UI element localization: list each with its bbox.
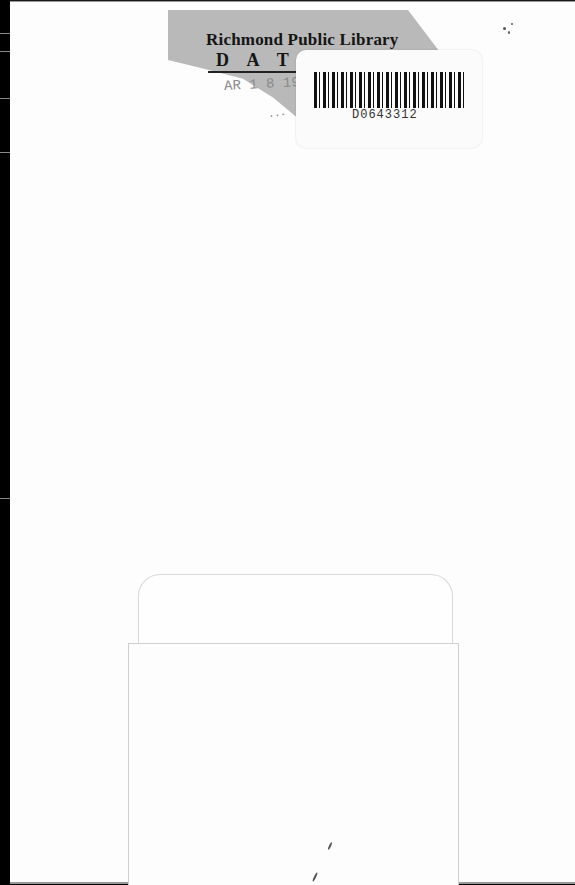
dust-speck [508, 31, 510, 34]
edge-mark [0, 51, 10, 52]
library-name: Richmond Public Library [206, 30, 399, 50]
barcode-icon [314, 72, 464, 108]
edge-mark [0, 98, 10, 99]
date-heading: D A T [216, 50, 296, 71]
edge-mark [0, 33, 10, 34]
barcode-number: D0643312 [352, 108, 418, 122]
dust-speck [503, 27, 506, 30]
top-edge-shadow [10, 0, 575, 2]
card-pocket [128, 643, 459, 885]
heading-underline [208, 71, 298, 73]
dust-speck [511, 23, 513, 25]
barcode-sticker: D0643312 [296, 50, 482, 148]
edge-mark [0, 498, 10, 499]
edge-mark [0, 152, 10, 153]
